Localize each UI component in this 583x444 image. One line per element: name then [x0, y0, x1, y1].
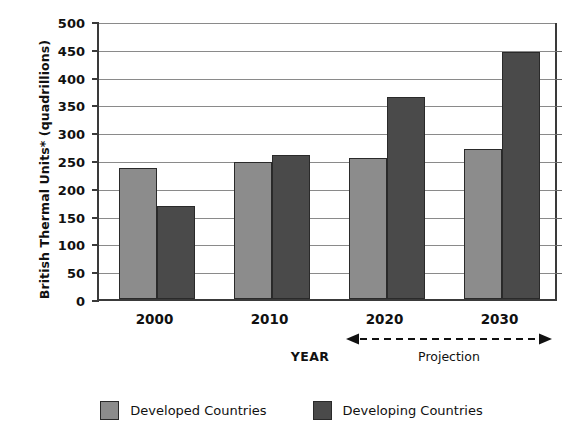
y-axis-tick-right: [555, 273, 562, 274]
legend-item: Developed Countries: [100, 401, 266, 420]
y-axis-tick: [92, 133, 99, 135]
y-axis-tick: [92, 50, 99, 52]
y-axis-tick-right: [555, 245, 562, 246]
legend-swatch-icon: [100, 401, 119, 420]
y-axis-tick-right: [555, 218, 562, 219]
y-axis-tick-label: 300: [45, 127, 85, 142]
gridline: [99, 134, 555, 135]
y-axis-tick-label: 350: [45, 99, 85, 114]
legend-label: Developed Countries: [130, 403, 266, 418]
y-axis-tick: [92, 161, 99, 163]
x-axis-title: YEAR: [255, 349, 365, 364]
y-axis-tick-right: [555, 51, 562, 52]
projection-label: Projection: [384, 349, 514, 364]
legend-label: Developing Countries: [343, 403, 483, 418]
y-axis-tick-label: 400: [45, 71, 85, 86]
y-axis-tick-label: 200: [45, 182, 85, 197]
y-axis-tick: [92, 217, 99, 219]
y-axis-tick-label: 0: [45, 294, 85, 309]
y-axis-tick-label: 250: [45, 155, 85, 170]
gridline: [99, 51, 555, 52]
gridline: [99, 23, 555, 24]
projection-arrow-icon: [346, 331, 552, 345]
bar-2000-developed-countries: [119, 168, 157, 299]
y-axis-tick-label: 450: [45, 43, 85, 58]
bar-2030-developed-countries: [464, 149, 502, 299]
y-axis-tick: [92, 244, 99, 246]
bar-2030-developing-countries: [502, 52, 540, 299]
y-axis-tick-right: [555, 162, 562, 163]
y-axis-tick-label: 500: [45, 16, 85, 31]
plot-area: [97, 23, 557, 301]
y-axis-tick: [92, 272, 99, 274]
y-axis-tick: [92, 189, 99, 191]
y-axis-tick-right: [555, 79, 562, 80]
y-axis-tick-right: [555, 106, 562, 107]
bar-2010-developing-countries: [272, 155, 310, 299]
y-axis-tick-right: [555, 134, 562, 135]
gridline: [99, 79, 555, 80]
y-axis-tick: [92, 22, 99, 24]
x-axis-tick-label-2000: 2000: [100, 311, 210, 327]
bar-chart: British Thermal Units* (quadrillions) 05…: [0, 0, 583, 444]
y-axis-tick-right: [555, 190, 562, 191]
y-axis-tick: [92, 78, 99, 80]
bar-2020-developing-countries: [387, 97, 425, 299]
x-axis-tick-label-2010: 2010: [215, 311, 325, 327]
y-axis-tick-label: 100: [45, 238, 85, 253]
y-axis-tick-label: 50: [45, 266, 85, 281]
gridline: [99, 106, 555, 107]
y-axis-tick-label: 150: [45, 210, 85, 225]
y-axis-tick: [92, 300, 99, 302]
legend-item: Developing Countries: [313, 401, 483, 420]
bar-2000-developing-countries: [157, 206, 195, 299]
bar-2010-developed-countries: [234, 162, 272, 299]
x-axis-tick-label-2020: 2020: [330, 311, 440, 327]
y-axis-tick: [92, 105, 99, 107]
bar-2020-developed-countries: [349, 158, 387, 299]
chart-legend: Developed CountriesDeveloping Countries: [0, 401, 583, 420]
x-axis-tick-label-2030: 2030: [445, 311, 555, 327]
legend-swatch-icon: [313, 401, 332, 420]
